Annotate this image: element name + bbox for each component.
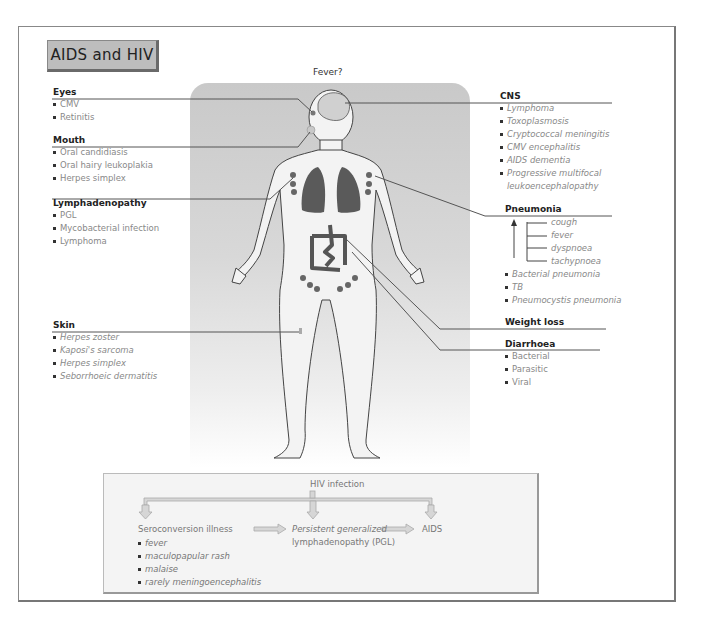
seroconversion-symptoms: fever maculopapular rash malaise rarely … (138, 537, 261, 589)
arrow-up-icon (511, 219, 517, 226)
symptom-item: tachypnoea (551, 255, 601, 268)
skin-lesion (299, 328, 302, 334)
stage-pgl-line1: Persistent generalized (292, 524, 387, 534)
stage-seroconversion: Seroconversion illness (138, 524, 233, 534)
list-item: Viral (505, 376, 555, 389)
section-skin: Skin Herpes zoster Kaposi's sarcoma Herp… (53, 320, 157, 383)
heading-weight-loss: Weight loss (505, 317, 564, 328)
heading-diarrhoea: Diarrhoea (505, 339, 555, 350)
stage-aids: AIDS (422, 524, 442, 534)
list-item: Lymphoma (53, 235, 159, 248)
heading-skin: Skin (53, 320, 157, 331)
list-item: Parasitic (505, 363, 555, 376)
list-item: CMV encephalitis (500, 141, 620, 154)
heading-cns: CNS (500, 91, 620, 102)
list-item: rarely meningoencephalitis (138, 576, 261, 589)
section-diarrhoea: Diarrhoea Bacterial Parasitic Viral (505, 339, 555, 389)
list-item: Pneumocystis pneumonia (505, 294, 621, 307)
list-item: Oral hairy leukoplakia (53, 159, 153, 172)
heading-lymphadenopathy: Lymphadenopathy (53, 198, 159, 209)
symptom-item: cough (551, 216, 601, 229)
list-item: Kaposi's sarcoma (53, 344, 157, 357)
hiv-progression-box: HIV infection Seroconversion illness fev… (103, 473, 539, 594)
list-item: Herpes simplex (53, 357, 157, 370)
list-item: Lymphoma (500, 102, 620, 115)
heading-mouth: Mouth (53, 135, 153, 146)
heading-eyes: Eyes (53, 87, 94, 98)
list-item: maculopapular rash (138, 550, 261, 563)
section-lymphadenopathy: Lymphadenopathy PGL Mycobacterial infect… (53, 198, 159, 248)
list-item: Herpes simplex (53, 172, 153, 185)
pneumonia-causes: Bacterial pneumonia TB Pneumocystis pneu… (505, 268, 621, 307)
section-weight-loss: Weight loss (505, 317, 564, 328)
pneumonia-symptoms: cough fever dyspnoea tachypnoea (551, 216, 601, 268)
list-item: Retinitis (53, 111, 94, 124)
list-item: fever (138, 537, 261, 550)
section-pneumonia: Pneumonia (505, 204, 562, 215)
stage-pgl-line2: lymphadenopathy (PGL) (292, 537, 395, 547)
list-item: Cryptococcal meningitis (500, 128, 620, 141)
brain-shape (318, 93, 350, 121)
symptom-item: dyspnoea (551, 242, 601, 255)
list-item: Toxoplasmosis (500, 115, 620, 128)
list-item: PGL (53, 209, 159, 222)
list-item: AIDS dementia (500, 154, 620, 167)
list-item: Herpes zoster (53, 331, 157, 344)
list-item: Mycobacterial infection (53, 222, 159, 235)
list-item: Bacterial pneumonia (505, 268, 621, 281)
torso-shape (236, 150, 420, 458)
list-item: TB (505, 281, 621, 294)
symptom-item: fever (551, 229, 601, 242)
section-cns: CNS Lymphoma Toxoplasmosis Cryptococcal … (500, 91, 620, 193)
list-item: Seborrhoeic dermatitis (53, 370, 157, 383)
list-item: malaise (138, 563, 261, 576)
list-item: Bacterial (505, 350, 555, 363)
list-item: Oral candidiasis (53, 146, 153, 159)
section-mouth: Mouth Oral candidiasis Oral hairy leukop… (53, 135, 153, 185)
list-item: CMV (53, 98, 94, 111)
mouth-shape (307, 126, 315, 134)
heading-pneumonia: Pneumonia (505, 204, 562, 215)
section-eyes: Eyes CMV Retinitis (53, 87, 94, 124)
list-item: Progressive multifocal leukoencephalopat… (500, 167, 620, 193)
